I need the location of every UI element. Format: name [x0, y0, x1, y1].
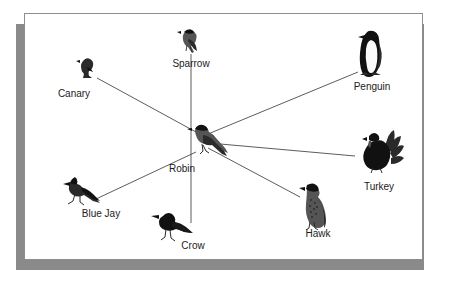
node-label-hawk: Hawk — [305, 228, 330, 239]
turkey-bird-icon — [355, 127, 405, 177]
penguin-bird-icon — [355, 28, 389, 84]
node-label-penguin: Penguin — [354, 81, 391, 92]
sparrow-bird-icon — [176, 26, 206, 60]
figure-canvas: Robin Canary Sparrow Penguin — [0, 0, 450, 288]
node-label-robin: Robin — [169, 163, 195, 174]
node-label-canary: Canary — [58, 88, 90, 99]
canary-bird-icon — [75, 55, 101, 85]
hawk-bird-icon — [293, 180, 333, 234]
node-label-turkey: Turkey — [364, 181, 394, 192]
node-label-sparrow: Sparrow — [172, 58, 209, 69]
node-label-bluejay: Blue Jay — [82, 208, 120, 219]
robin-bird-icon — [182, 118, 228, 162]
node-label-crow: Crow — [181, 240, 204, 251]
